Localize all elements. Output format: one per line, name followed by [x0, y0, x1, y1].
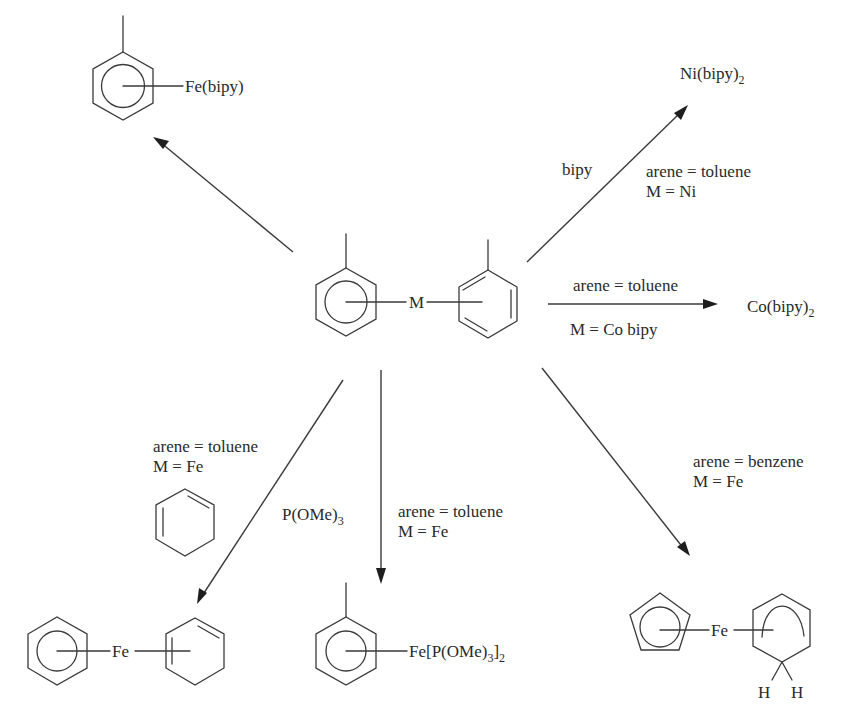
- arrow-to-right: [548, 299, 718, 309]
- cyclohexadiene-reagent: [156, 489, 214, 556]
- product-bottom-right: Fe H H: [630, 593, 810, 702]
- ch2-bond-1: [772, 662, 782, 680]
- center-complex: M: [316, 234, 517, 338]
- product-label: Fe(bipy): [185, 77, 244, 96]
- arrow-to-bottom-right: [542, 368, 690, 556]
- reagent-label: P(OMe)3: [282, 505, 344, 528]
- product-label: Ni(bipy)2: [680, 64, 745, 87]
- conditions-bottom-center: P(OMe)3 arene = toluene M = Fe: [282, 502, 503, 541]
- product-bottom-center: Fe[P(OMe)3]2: [316, 583, 505, 685]
- condition-line-1: arene = benzene: [693, 452, 804, 471]
- condition-line-2: M = Fe: [153, 457, 203, 476]
- cyclopentadienyl-ring: [630, 593, 690, 650]
- metal-label: M: [409, 293, 424, 312]
- aromatic-circle: [640, 607, 680, 647]
- product-top-right: Ni(bipy)2: [680, 64, 745, 87]
- metal-label: Fe: [112, 642, 129, 661]
- dienyl-arc: [762, 606, 804, 637]
- double-bond-3: [465, 318, 487, 331]
- condition-line-2: M = Fe: [693, 472, 743, 491]
- cyclohexadienyl-ring: [753, 594, 810, 662]
- reagent-label: bipy: [562, 160, 593, 179]
- condition-below: M = Co bipy: [570, 320, 658, 339]
- conditions-top-right: bipy arene = toluene M = Ni: [562, 160, 751, 201]
- reaction-scheme: Fe(bipy) M: [0, 0, 845, 723]
- ch2-bond-2: [782, 662, 792, 680]
- condition-line-1: arene = toluene: [398, 502, 503, 521]
- product-label: Co(bipy)2: [747, 297, 814, 320]
- conditions-bottom-right: arene = benzene M = Fe: [693, 452, 804, 491]
- arrow-to-bottom-center: [376, 370, 386, 584]
- condition-line-1: arene = toluene: [646, 162, 751, 181]
- arrow-to-bottom-left: [197, 380, 343, 604]
- conditions-bottom-left: arene = toluene M = Fe: [153, 437, 258, 556]
- condition-above: arene = toluene: [573, 276, 678, 295]
- condition-line-1: arene = toluene: [153, 437, 258, 456]
- product-bottom-left: Fe: [28, 617, 224, 685]
- conditions-right: arene = toluene M = Co bipy: [570, 276, 678, 339]
- product-label: Fe[P(OMe)3]2: [409, 642, 505, 665]
- condition-line-2: M = Fe: [398, 522, 448, 541]
- hydrogen-label-1: H: [758, 683, 770, 702]
- arrow-to-top-left: [153, 137, 293, 252]
- condition-line-2: M = Ni: [646, 182, 696, 201]
- right-arene-ring: [459, 270, 517, 338]
- metal-label: Fe: [711, 621, 728, 640]
- hydrogen-label-2: H: [791, 683, 803, 702]
- product-top-left: Fe(bipy): [93, 16, 244, 120]
- product-right: Co(bipy)2: [747, 297, 814, 320]
